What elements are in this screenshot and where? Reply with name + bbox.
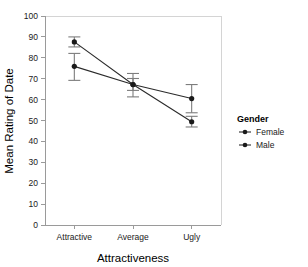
y-tick-label: 20 — [29, 178, 39, 188]
series-layer — [68, 37, 197, 127]
x-axis: AttractiveAverageUgly — [45, 225, 221, 242]
legend-marker-dot — [243, 143, 248, 148]
y-tick-label: 70 — [29, 74, 39, 84]
data-point — [130, 82, 135, 87]
data-point — [72, 64, 77, 69]
legend-item-label: Female — [256, 127, 285, 137]
legend-item-male[interactable]: Male — [239, 140, 275, 150]
x-tick-label: Ugly — [183, 232, 201, 242]
legend-title: Gender — [237, 114, 269, 124]
y-tick-label: 90 — [29, 32, 39, 42]
y-tick-label: 10 — [29, 199, 39, 209]
x-tick-label: Attractive — [57, 232, 93, 242]
data-point — [189, 119, 194, 124]
legend-item-label: Male — [256, 140, 275, 150]
legend-marker-dot — [243, 130, 248, 135]
series-male — [68, 37, 197, 127]
chart-figure: 0102030405060708090100 AttractiveAverage… — [0, 0, 308, 267]
data-point — [72, 39, 77, 44]
y-tick-label: 0 — [33, 220, 38, 230]
x-axis-title: Attractiveness — [97, 252, 169, 264]
y-tick-label: 30 — [29, 157, 39, 167]
line-chart-canvas: 0102030405060708090100 AttractiveAverage… — [0, 0, 308, 267]
y-tick-label: 40 — [29, 136, 39, 146]
y-tick-label: 60 — [29, 95, 39, 105]
y-tick-label: 100 — [24, 11, 38, 21]
legend-item-female[interactable]: Female — [239, 127, 285, 137]
data-point — [189, 96, 194, 101]
y-tick-label: 80 — [29, 53, 39, 63]
y-tick-label: 50 — [29, 116, 39, 126]
y-axis-title: Mean Rating of Date — [3, 68, 15, 173]
x-tick-label: Average — [117, 232, 149, 242]
y-axis: 0102030405060708090100 — [24, 11, 45, 230]
legend: Gender FemaleMale — [237, 114, 285, 150]
